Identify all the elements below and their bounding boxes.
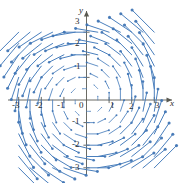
- field-arrow-shaft: [117, 78, 121, 89]
- field-arrow-head: [77, 151, 79, 153]
- field-arrow-shaft: [30, 145, 45, 164]
- field-arrow-head: [25, 68, 28, 71]
- field-arrow-head: [29, 80, 32, 83]
- field-arrow-head: [119, 50, 122, 53]
- field-arrow-head: [85, 23, 88, 26]
- field-arrow-head: [90, 111, 91, 112]
- field-arrow-head: [71, 92, 72, 93]
- field-arrow-shaft: [45, 44, 64, 51]
- field-arrow-shaft: [57, 77, 64, 84]
- field-arrow-head: [149, 103, 152, 106]
- field-arrow-head: [112, 27, 115, 30]
- field-arrow-shaft: [53, 66, 64, 73]
- field-arrow-head: [74, 27, 77, 30]
- field-arrow-head: [75, 103, 76, 104]
- x-tick-label-pos3: 3: [155, 101, 160, 110]
- field-arrow-head: [108, 129, 110, 131]
- field-arrow-shaft: [53, 134, 64, 145]
- field-arrow-shaft: [132, 142, 151, 157]
- y-tick-label-pos3: 3: [75, 17, 80, 26]
- field-arrow-head: [21, 57, 24, 60]
- field-arrow-head: [92, 159, 95, 162]
- field-arrow-head: [44, 87, 46, 89]
- field-arrow-head: [17, 121, 20, 124]
- field-arrow-shaft: [64, 111, 68, 118]
- field-arrow-shaft: [87, 62, 98, 66]
- field-arrow-head: [73, 177, 76, 180]
- field-arrow-head: [6, 87, 9, 90]
- field-arrow-shaft: [53, 145, 68, 156]
- field-arrow-head: [36, 177, 39, 180]
- field-arrow-head: [100, 31, 103, 34]
- arrow-group: [0, 8, 178, 183]
- field-arrow-head: [116, 77, 118, 79]
- field-arrow-head: [168, 121, 171, 124]
- field-arrow-head: [48, 99, 50, 101]
- field-arrow-head: [104, 42, 107, 45]
- field-arrow-head: [32, 166, 35, 169]
- field-arrow-shaft: [98, 59, 109, 66]
- field-arrow-head: [70, 129, 72, 131]
- field-arrow-head: [116, 39, 119, 42]
- field-arrow-head: [142, 42, 145, 45]
- field-arrow-head: [97, 58, 99, 60]
- field-arrow-head: [175, 144, 178, 147]
- field-arrow-shaft: [90, 74, 97, 78]
- field-arrow-shaft: [45, 77, 52, 88]
- field-arrow-head: [137, 144, 140, 147]
- field-arrow-shaft: [154, 134, 173, 156]
- field-arrow-shaft: [121, 14, 143, 33]
- field-arrow-shaft: [120, 112, 127, 123]
- field-arrow-shaft: [98, 108, 102, 112]
- field-arrow-shaft: [106, 44, 121, 55]
- field-arrow-shaft: [120, 123, 131, 134]
- y-tick-label-neg1: -1: [72, 117, 80, 126]
- field-arrow-head: [134, 58, 137, 61]
- y-axis-label: y: [79, 6, 83, 15]
- field-arrow-shaft: [109, 127, 120, 134]
- field-arrow-head: [145, 91, 148, 94]
- y-tick-label-neg3: -3: [72, 163, 80, 172]
- field-arrow-head: [85, 174, 88, 177]
- field-arrow-head: [153, 114, 156, 117]
- field-arrow-head: [40, 151, 43, 154]
- field-arrow-head: [40, 38, 43, 41]
- field-arrow-shaft: [30, 123, 37, 142]
- field-arrow-head: [47, 136, 49, 138]
- field-arrow-head: [149, 140, 152, 143]
- x-tick-label-neg1: -1: [57, 101, 65, 110]
- origin-label: 0: [79, 101, 84, 110]
- field-arrow-shaft: [64, 123, 71, 130]
- field-arrow-head: [108, 54, 110, 56]
- field-arrow-shaft: [75, 134, 86, 138]
- field-arrow-head: [36, 140, 39, 143]
- field-arrow-head: [52, 34, 55, 37]
- field-arrow-head: [6, 49, 9, 52]
- field-arrow-head: [164, 110, 167, 113]
- field-arrow-head: [111, 140, 113, 142]
- field-arrow-head: [164, 148, 167, 151]
- field-arrow-shaft: [23, 44, 42, 59]
- field-arrow-shaft: [105, 81, 109, 88]
- field-arrow-shaft: [132, 119, 143, 134]
- field-arrow-shaft: [120, 100, 124, 111]
- field-arrow-head: [86, 61, 88, 63]
- field-arrow-head: [37, 65, 40, 68]
- field-arrow-head: [29, 42, 32, 45]
- field-arrow-head: [127, 73, 129, 75]
- field-arrow-head: [29, 117, 32, 120]
- field-arrow-head: [134, 95, 136, 97]
- field-arrow-head: [97, 20, 100, 23]
- field-arrow-head: [67, 42, 70, 45]
- field-arrow-head: [59, 57, 61, 59]
- field-arrow-shaft: [128, 36, 143, 55]
- field-arrow-shaft: [113, 66, 120, 77]
- field-arrow-head: [94, 85, 95, 86]
- field-arrow-head: [123, 61, 125, 63]
- field-arrow-head: [14, 72, 17, 75]
- field-arrow-head: [18, 45, 21, 48]
- x-tick-label-neg3: -3: [12, 101, 20, 110]
- field-arrow-head: [78, 77, 80, 79]
- y-tick-label-pos1: 1: [76, 62, 81, 71]
- field-arrow-head: [44, 125, 46, 127]
